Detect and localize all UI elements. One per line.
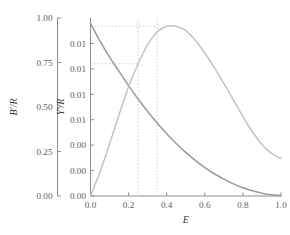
curve-yr [91, 26, 282, 196]
left-tick-label: 0.00 [36, 191, 52, 201]
inner-tick-label: 0.01 [70, 90, 86, 100]
left-tick-label: 0.25 [36, 147, 52, 157]
curve-br [91, 23, 282, 195]
x-tick-label: 1.0 [275, 200, 287, 210]
x-tick-label: 0.6 [199, 200, 211, 210]
inner-tick-label: 0.01 [70, 115, 86, 125]
x-axis-tick-labels: 0.00.20.40.60.81.0 [85, 200, 287, 210]
dual-axis-line-chart: 0.000.250.500.751.00 B'/R 0.000.000.000.… [0, 0, 290, 235]
left-tick-label: 1.00 [36, 13, 52, 23]
inner-tick-label: 0.01 [70, 64, 86, 74]
x-tick-label: 0.8 [237, 200, 249, 210]
x-tick-label: 0.4 [161, 200, 173, 210]
inner-y-axis-tick-labels: 0.000.000.000.010.010.010.01 [70, 39, 86, 202]
inner-y-axis-ticks [91, 43, 95, 196]
x-tick-label: 0.2 [123, 200, 135, 210]
left-axis-tick-labels: 0.000.250.500.751.00 [36, 13, 52, 201]
figure-container: 0.000.250.500.751.00 B'/R 0.000.000.000.… [0, 0, 290, 235]
inner-y-axis-title: Y'/R [55, 99, 66, 116]
inner-axis-group: 0.000.000.000.010.010.010.01 Y'/R [55, 18, 94, 201]
x-tick-label: 0.0 [85, 200, 97, 210]
x-axis-group: 0.00.20.40.60.81.0 E [85, 193, 287, 226]
left-axis-group: 0.000.250.500.751.00 B'/R [8, 13, 61, 201]
inner-tick-label: 0.01 [70, 39, 86, 49]
left-axis-title: B'/R [8, 98, 19, 115]
left-tick-label: 0.75 [36, 58, 52, 68]
inner-tick-label: 0.00 [70, 166, 86, 176]
data-curves [91, 23, 282, 196]
x-axis-title: E [182, 214, 189, 225]
left-tick-label: 0.50 [36, 102, 52, 112]
inner-tick-label: 0.00 [70, 140, 86, 150]
x-axis-ticks [91, 193, 282, 197]
